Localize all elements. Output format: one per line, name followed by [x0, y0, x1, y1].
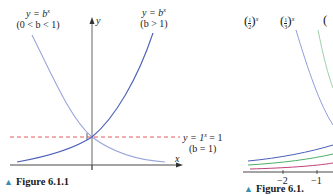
half-label: (12)x [244, 14, 258, 30]
third-curve-upper [318, 30, 333, 88]
half-curve-lower [248, 145, 333, 161]
growth-curve [17, 33, 153, 162]
decay-label: y = bx (0 < b < 1) [13, 6, 63, 30]
tick-minus-1: −1 [311, 175, 322, 186]
growth-label: y = bx (b > 1) [134, 5, 174, 29]
third-label: (13)x [280, 14, 294, 30]
triangle-marker-icon: ▲ [4, 177, 13, 187]
constant-condition: (b = 1) [189, 143, 216, 154]
figure-1-caption: ▲Figure 6.1.1 [4, 176, 69, 187]
partial-label: ( [323, 14, 327, 25]
y-axis-label: y [96, 15, 100, 26]
figure-2-caption: ▲Figure 6.1. [244, 183, 304, 194]
y-axis-arrow-icon [90, 17, 95, 24]
half-curve-upper [296, 30, 333, 125]
triangle-marker-icon: ▲ [244, 184, 253, 194]
constant-label: y = 1x = 1 [183, 130, 223, 143]
x-axis-label: x [175, 153, 179, 164]
